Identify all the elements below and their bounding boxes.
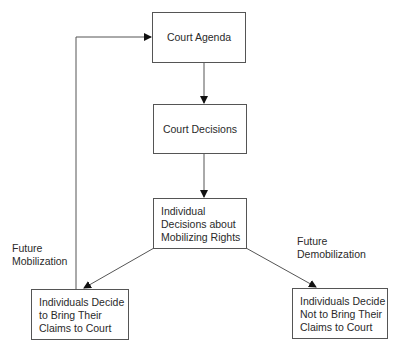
node-court-decisions: Court Decisions (153, 104, 247, 154)
node-not-bring-claims: Individuals Decide Not to Bring Their Cl… (292, 288, 388, 339)
node-court-decisions-label: Court Decisions (163, 123, 237, 136)
label-future-demobilization: Future Demobilization (297, 235, 366, 261)
node-line: Claims to Court (39, 322, 128, 335)
node-court-agenda-label: Court Agenda (167, 31, 231, 44)
label-line: Demobilization (297, 248, 366, 261)
node-line: Mobilizing Rights (161, 231, 246, 244)
label-line: Mobilization (12, 255, 67, 268)
label-line: Future (297, 235, 366, 248)
node-bring-claims: Individuals Decide to Bring Their Claims… (31, 289, 129, 340)
node-line: Individuals Decide (300, 295, 387, 308)
arrow-feedback-loop (76, 37, 151, 289)
node-line: to Bring Their (39, 309, 128, 322)
label-line: Future (12, 242, 67, 255)
node-line: Individual (161, 205, 246, 218)
node-line: Decisions about (161, 218, 246, 231)
label-future-mobilization: Future Mobilization (12, 242, 67, 268)
node-line: Individuals Decide (39, 296, 128, 309)
node-court-agenda: Court Agenda (152, 12, 246, 63)
arrow-to-bring-claims (84, 248, 154, 288)
node-line: Not to Bring Their (300, 308, 387, 321)
node-individual-decisions: Individual Decisions about Mobilizing Ri… (153, 198, 247, 249)
node-line: Claims to Court (300, 321, 387, 334)
